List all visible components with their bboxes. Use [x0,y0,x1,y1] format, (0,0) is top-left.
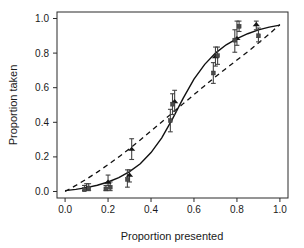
x-axis-title: Proportion presented [121,230,224,242]
chart-figure: 0.00.20.40.60.81.0 0.00.20.40.60.81.0 Pr… [0,0,304,248]
square-data-point [108,185,112,189]
square-data-point [125,177,129,181]
square-data-point [82,188,86,192]
x-tick-label: 0.0 [58,204,72,215]
square-data-point [104,187,108,191]
x-tick-label: 0.4 [144,204,158,215]
square-data-point [211,71,215,75]
square-data-point [237,24,241,28]
y-axis-title: Proportion taken [7,65,19,146]
x-tick-label: 1.0 [273,204,287,215]
square-data-point [216,54,220,58]
y-tick-label: 0.0 [35,186,49,197]
square-data-point [168,119,172,123]
square-data-point [233,38,237,42]
y-tick-label: 0.8 [35,48,49,59]
x-tick-label: 0.6 [187,204,201,215]
y-tick-label: 0.2 [35,151,49,162]
square-data-point [171,102,175,106]
y-tick-label: 0.4 [35,117,49,128]
y-tick-label: 1.0 [35,13,49,24]
x-tick-label: 0.8 [230,204,244,215]
square-data-point [87,186,91,190]
x-tick-label: 0.2 [101,204,115,215]
square-data-point [256,34,260,38]
scatter-plot: 0.00.20.40.60.81.0 0.00.20.40.60.81.0 Pr… [0,0,304,248]
y-tick-label: 0.6 [35,82,49,93]
